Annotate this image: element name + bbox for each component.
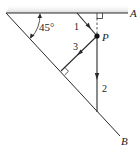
diagram-svg: 45° 1 2 3 P A B bbox=[0, 0, 140, 156]
point-p bbox=[94, 33, 99, 38]
wall-shading-top bbox=[6, 4, 128, 13]
right-angle-marker-diagonal bbox=[65, 67, 69, 75]
force-label-1: 1 bbox=[74, 21, 79, 32]
angle-label: 45° bbox=[39, 21, 54, 33]
force-label-3: 3 bbox=[73, 41, 78, 52]
force-label-2: 2 bbox=[102, 83, 107, 94]
force-diagram: 45° 1 2 3 P A B bbox=[0, 0, 140, 156]
wall-label-a: A bbox=[129, 7, 137, 19]
wall-label-b: B bbox=[121, 135, 128, 147]
right-angle-marker-top bbox=[97, 13, 103, 19]
point-p-label: P bbox=[101, 31, 109, 43]
arc-arrowhead-top bbox=[38, 14, 43, 19]
arrow-2-icon bbox=[95, 73, 99, 80]
